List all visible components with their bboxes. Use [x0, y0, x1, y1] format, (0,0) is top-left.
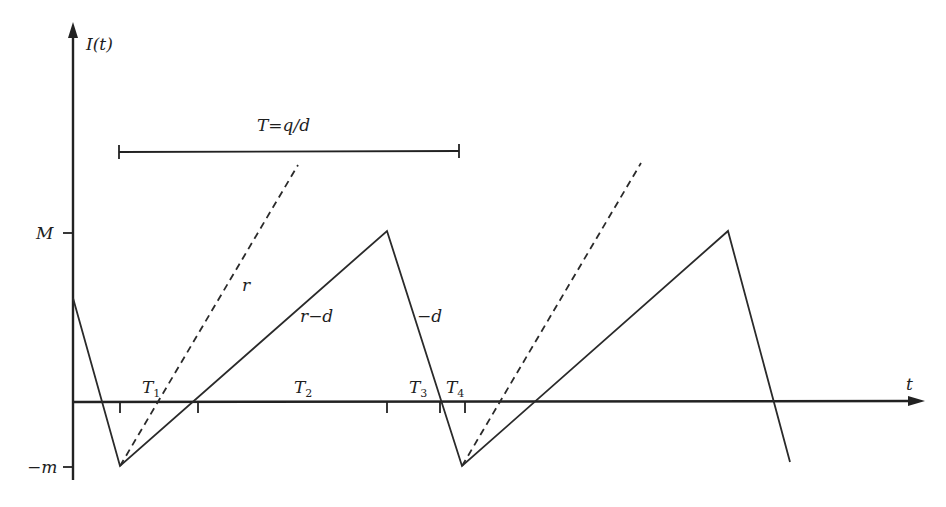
- production-rate-line-2: [462, 163, 641, 466]
- segment-label-r-minus-d: r−d: [300, 306, 333, 326]
- x-axis: [73, 401, 912, 402]
- tick-label-minus-m: −m: [27, 457, 57, 477]
- segment-label-r: r: [242, 275, 251, 295]
- x-axis-arrow-icon: [908, 396, 925, 406]
- production-rate-line-1: [120, 165, 298, 466]
- interval-label-T3: T3: [409, 377, 427, 400]
- y-axis-arrow-icon: [68, 22, 78, 38]
- interval-label-T1: T1: [142, 377, 160, 400]
- x-axis-label: t: [906, 374, 913, 394]
- inventory-diagram: I(t) t M −m T=q/d r r−d −d T1 T2 T3 T4: [0, 0, 946, 507]
- x-axis-ticks: [120, 402, 465, 413]
- y-axis-label: I(t): [85, 34, 113, 54]
- inventory-curve: [73, 231, 790, 466]
- interval-label-T2: T2: [294, 377, 312, 400]
- period-bracket: [119, 144, 459, 159]
- segment-label-minus-d: −d: [417, 306, 442, 326]
- period-label: T=q/d: [257, 115, 310, 135]
- tick-label-M: M: [35, 223, 54, 243]
- interval-label-T4: T4: [446, 377, 464, 400]
